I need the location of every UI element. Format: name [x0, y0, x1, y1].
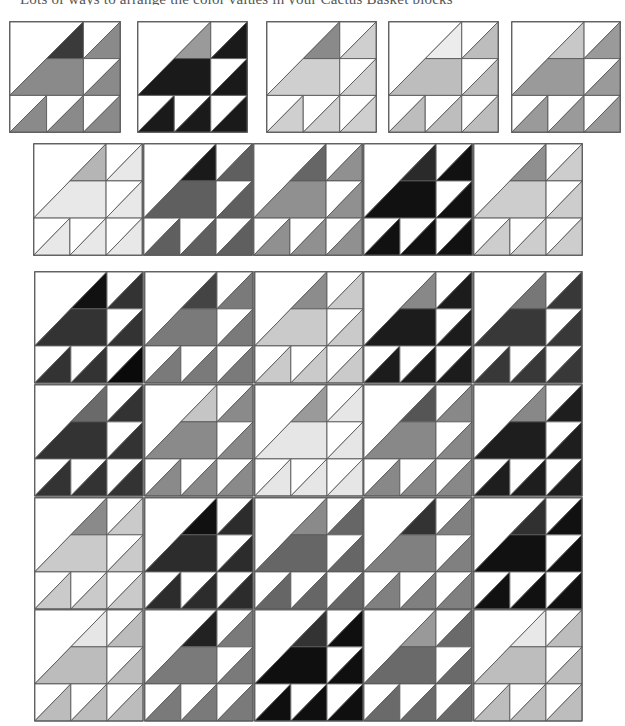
- sample-block-2-4: [363, 143, 473, 256]
- sample-block-2-5: [473, 143, 583, 256]
- quilt-block-r4-c4: [363, 609, 473, 722]
- sample-block-2-1: [33, 143, 143, 256]
- quilt-block-r3-c5: [473, 497, 583, 610]
- sample-block-1-3: [266, 21, 377, 133]
- quilt-block-r2-c3: [254, 384, 364, 497]
- quilt-block-r1-c5: [473, 271, 583, 384]
- quilt-block-r4-c2: [144, 609, 254, 722]
- quilt-block-r3-c4: [363, 497, 473, 610]
- sample-block-1-4: [388, 21, 499, 133]
- quilt-block-r3-c1: [34, 497, 144, 610]
- quilt-block-r4-c5: [473, 609, 583, 722]
- quilt-block-r4-c1: [34, 609, 144, 722]
- quilt-block-r4-c3: [254, 609, 364, 722]
- quilt-block-r1-c4: [363, 271, 473, 384]
- sample-block-1-1: [9, 21, 121, 133]
- quilt-block-r2-c2: [144, 384, 254, 497]
- quilt-block-r1-c1: [34, 271, 144, 384]
- sample-block-1-5: [511, 21, 621, 133]
- quilt-block-r2-c5: [473, 384, 583, 497]
- quilt-block-r2-c4: [363, 384, 473, 497]
- sample-block-2-2: [143, 143, 253, 256]
- sample-block-2-3: [253, 143, 363, 256]
- quilt-block-r2-c1: [34, 384, 144, 497]
- caption-text: Lots of ways to arrange the color values…: [20, 0, 620, 5]
- quilt-block-r1-c3: [254, 271, 364, 384]
- sample-block-1-2: [137, 21, 248, 133]
- quilt-block-r1-c2: [144, 271, 254, 384]
- quilt-block-r3-c3: [254, 497, 364, 610]
- quilt-block-r3-c2: [144, 497, 254, 610]
